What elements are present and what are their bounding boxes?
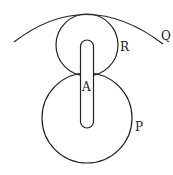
linkage-diagram: Q R A P [0, 0, 173, 175]
label-a: A [81, 80, 91, 94]
label-r: R [120, 40, 130, 54]
label-p: P [135, 120, 143, 134]
label-q: Q [161, 29, 171, 43]
